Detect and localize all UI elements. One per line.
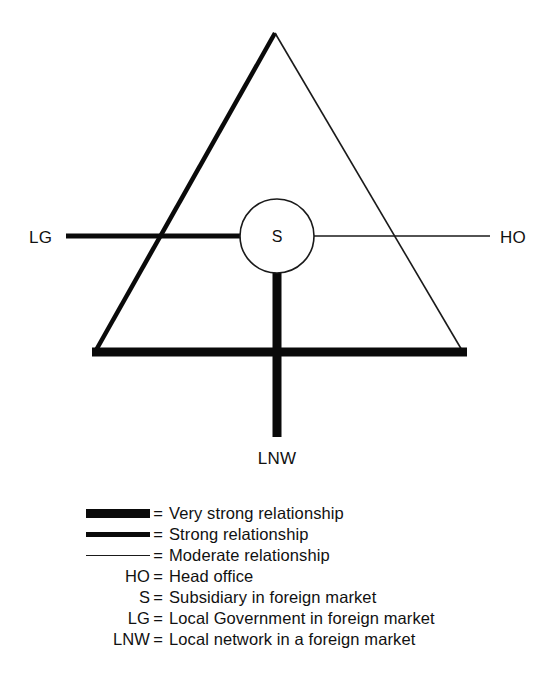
legend-equals-sign: = [150, 587, 166, 608]
legend-row: LG = Local Government in foreign market [0, 608, 552, 629]
legend-key-very-strong [0, 509, 150, 518]
triangle-right-edge-moderate [275, 33, 463, 352]
legend-key-lg: LG [0, 608, 150, 629]
legend-row: S = Subsidiary in foreign market [0, 587, 552, 608]
legend-description: Local network in a foreign market [166, 629, 415, 650]
legend-key-label: LNW [113, 629, 150, 650]
legend-key-label: S [139, 587, 150, 608]
legend-description: Strong relationship [166, 524, 308, 545]
legend-row: = Strong relationship [0, 524, 552, 545]
moderate-line-swatch-icon [86, 555, 150, 557]
very-strong-line-swatch-icon [86, 509, 150, 518]
legend-row: = Moderate relationship [0, 545, 552, 566]
node-label-ho: HO [500, 228, 526, 247]
legend-row: LNW = Local network in a foreign market [0, 629, 552, 650]
legend-row: = Very strong relationship [0, 503, 552, 524]
legend-description: Very strong relationship [166, 503, 344, 524]
legend-key-s: S [0, 587, 150, 608]
legend-description: Head office [166, 566, 253, 587]
triangle-left-edge-strong [95, 33, 275, 352]
legend: = Very strong relationship = Strong rela… [0, 503, 552, 650]
legend-key-moderate [0, 555, 150, 557]
legend-row: HO = Head office [0, 566, 552, 587]
node-label-lg: LG [29, 228, 52, 247]
node-label-lnw: LNW [258, 449, 296, 468]
legend-description: Moderate relationship [166, 545, 330, 566]
legend-key-strong [0, 532, 150, 537]
legend-equals-sign: = [150, 566, 166, 587]
legend-description: Subsidiary in foreign market [166, 587, 376, 608]
legend-key-ho: HO [0, 566, 150, 587]
strong-line-swatch-icon [86, 532, 150, 537]
relationship-triangle-diagram: S LG HO LNW [0, 0, 552, 500]
legend-equals-sign: = [150, 629, 166, 650]
legend-equals-sign: = [150, 545, 166, 566]
legend-equals-sign: = [150, 503, 166, 524]
legend-description: Local Government in foreign market [166, 608, 435, 629]
node-label-s: S [272, 228, 283, 245]
legend-key-label: LG [128, 608, 150, 629]
legend-key-lnw: LNW [0, 629, 150, 650]
legend-equals-sign: = [150, 608, 166, 629]
legend-equals-sign: = [150, 524, 166, 545]
legend-key-label: HO [125, 566, 150, 587]
page-root: S LG HO LNW = Very strong relationship =… [0, 0, 552, 682]
